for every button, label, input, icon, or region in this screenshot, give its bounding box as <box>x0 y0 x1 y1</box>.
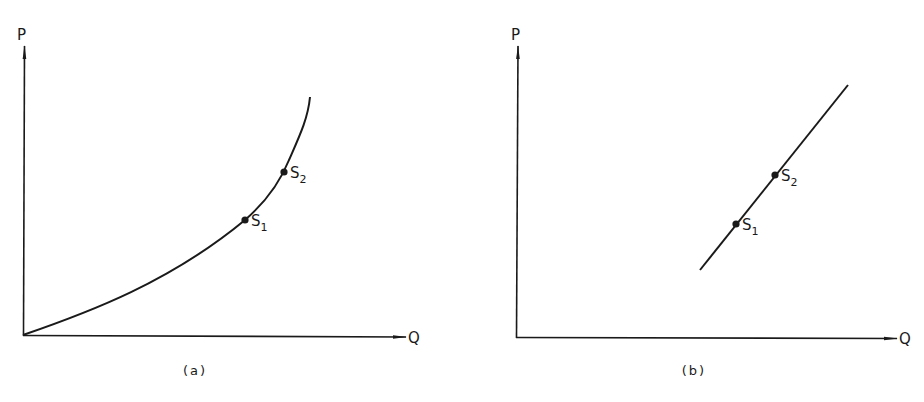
point-marker <box>732 220 739 227</box>
panel-b-x-axis-label: Q <box>899 330 911 348</box>
panel-a-y-axis <box>24 46 25 336</box>
point-marker <box>241 216 248 223</box>
point-marker <box>771 171 778 178</box>
panel-a-point-s1: S1 <box>241 212 267 234</box>
panel-a: P Q S1 S2 (a) <box>17 26 420 378</box>
figure-caption-clipped <box>238 397 678 402</box>
panel-b-point-s2: S2 <box>771 167 797 189</box>
panel-a-point-s2: S2 <box>280 164 306 186</box>
panel-b-point-s1: S1 <box>732 216 758 238</box>
panel-b-y-axis <box>517 46 519 338</box>
figure: P Q S1 S2 (a) P Q <box>0 0 924 402</box>
panel-a-y-axis-label: P <box>17 26 26 44</box>
point-label: S1 <box>251 212 268 234</box>
panel-b-label: (b) <box>682 363 706 378</box>
point-marker <box>280 168 287 175</box>
panel-a-curve <box>23 97 310 335</box>
point-label: S1 <box>742 216 759 238</box>
point-label: S2 <box>781 167 798 189</box>
panel-a-x-axis <box>23 336 406 338</box>
panel-b-x-axis <box>516 338 897 339</box>
panel-b: P Q S1 S2 (b) <box>511 26 911 378</box>
panel-b-y-axis-label: P <box>511 26 520 44</box>
panel-a-x-axis-label: Q <box>408 329 420 347</box>
point-label: S2 <box>290 164 307 186</box>
panel-a-label: (a) <box>183 363 207 378</box>
